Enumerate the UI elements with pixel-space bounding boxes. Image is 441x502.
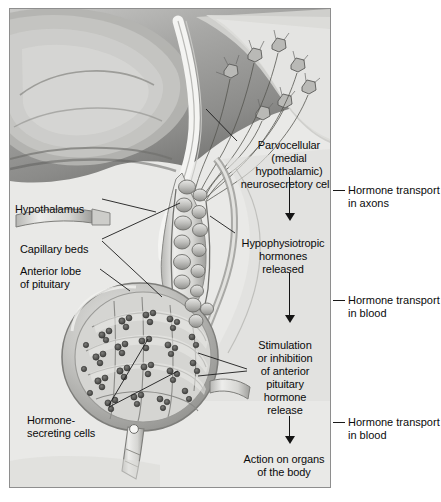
stimulation-inhibition-label: Stimulation or inhibition of anterior pi… (247, 339, 323, 417)
hormone-secreting-cells-label: Hormone- secreting cells (27, 414, 113, 440)
capillary-beds-label: Capillary beds (20, 243, 106, 256)
action-on-organs-label: Action on organs of the body (235, 453, 331, 479)
hormone-transport-axons-caption: Hormone transport in axons (348, 184, 440, 210)
flow-arrow-blood-transport-1 (284, 273, 295, 323)
flow-arrow-blood-transport-2 (284, 416, 295, 444)
hypothalamus-label: Hypothalamus (15, 203, 107, 216)
hormone-transport-blood-caption-2: Hormone transport in blood (348, 416, 440, 442)
flow-arrow-axon-transport (284, 177, 295, 221)
caption-tick-blood-1 (333, 300, 345, 301)
hormone-transport-blood-caption-1: Hormone transport in blood (348, 294, 440, 320)
illustration-panel: Parvocellular (medial hypothalamic) neur… (9, 8, 331, 488)
anterior-lobe-label: Anterior lobe of pituitary (20, 265, 104, 291)
caption-tick-blood-2 (333, 422, 345, 423)
figure-root: Parvocellular (medial hypothalamic) neur… (0, 0, 441, 502)
caption-tick-axons (333, 190, 345, 191)
hypophysiotropic-hormones-label: Hypophysiotropic hormones released (235, 237, 331, 276)
